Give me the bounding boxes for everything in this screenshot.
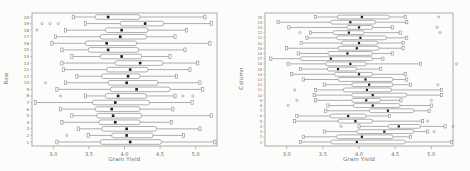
box-column-12 xyxy=(323,83,439,87)
box-row-15 xyxy=(61,48,186,53)
box-column-9 xyxy=(296,98,433,102)
box-column-16 xyxy=(287,62,458,66)
box-row-17 xyxy=(54,34,176,39)
box-column-18 xyxy=(297,52,393,56)
box-column-7 xyxy=(325,109,431,113)
box-row-5 xyxy=(71,113,213,118)
svg-text:16: 16 xyxy=(257,62,262,66)
svg-text:25: 25 xyxy=(257,16,262,20)
box-row-20 xyxy=(72,15,206,20)
box-row-7 xyxy=(34,100,193,105)
svg-text:10: 10 xyxy=(24,80,30,85)
box-row-1 xyxy=(56,140,216,145)
svg-text:16: 16 xyxy=(24,41,30,46)
box-row-8 xyxy=(59,94,194,99)
box-row-4 xyxy=(61,120,173,125)
box-row-16 xyxy=(51,41,211,46)
svg-text:6: 6 xyxy=(260,114,263,118)
box-column-24 xyxy=(277,20,408,24)
svg-text:1: 1 xyxy=(27,140,30,145)
box-row-6 xyxy=(59,107,174,112)
box-column-20 xyxy=(300,41,404,45)
svg-text:20: 20 xyxy=(257,42,262,46)
svg-text:6: 6 xyxy=(27,107,30,112)
box-column-6 xyxy=(296,114,391,118)
svg-text:13: 13 xyxy=(24,61,30,66)
box-row-10 xyxy=(44,80,201,85)
svg-text:22: 22 xyxy=(257,31,262,35)
svg-text:7: 7 xyxy=(27,100,30,105)
box-column-2 xyxy=(302,135,411,139)
box-row-3 xyxy=(77,127,201,132)
box-column-13 xyxy=(302,78,408,82)
y-axis-title-row-panel: Row xyxy=(3,49,12,109)
svg-text:23: 23 xyxy=(257,26,262,30)
svg-text:15: 15 xyxy=(257,68,262,72)
svg-text:9: 9 xyxy=(260,99,263,103)
box-row-11 xyxy=(76,74,178,79)
svg-text:14: 14 xyxy=(257,73,262,77)
svg-text:9: 9 xyxy=(27,87,30,92)
box-row-18 xyxy=(36,28,188,33)
y-axis-title-column-panel: Column xyxy=(238,49,247,109)
svg-text:11: 11 xyxy=(257,88,262,92)
box-column-3 xyxy=(323,130,435,134)
svg-text:5: 5 xyxy=(260,120,263,124)
svg-text:3: 3 xyxy=(260,130,263,134)
box-column-4 xyxy=(340,124,454,128)
svg-text:19: 19 xyxy=(24,21,30,26)
svg-text:18: 18 xyxy=(24,28,30,33)
box-column-22 xyxy=(299,31,441,35)
box-column-23 xyxy=(288,26,438,30)
svg-text:17: 17 xyxy=(24,34,30,39)
box-column-14 xyxy=(291,72,407,76)
box-row-14 xyxy=(71,54,171,59)
svg-text:17: 17 xyxy=(257,57,262,61)
box-row-12 xyxy=(62,67,191,72)
svg-text:8: 8 xyxy=(260,104,263,108)
box-column-25 xyxy=(315,15,440,19)
dual-boxplot-figure: 3.03.54.04.55.01234567891011121314151617… xyxy=(0,0,470,171)
svg-text:13: 13 xyxy=(257,78,262,82)
svg-text:2: 2 xyxy=(27,133,30,138)
box-column-10 xyxy=(313,93,442,97)
svg-text:2: 2 xyxy=(260,135,262,139)
svg-text:14: 14 xyxy=(24,54,30,59)
svg-text:20: 20 xyxy=(24,15,30,20)
column-boxplot-canvas: 3.03.54.04.55.01234567891011121314151617… xyxy=(235,0,470,171)
box-row-2 xyxy=(66,133,185,138)
x-axis-title-column-panel: Grain Yield xyxy=(265,156,453,162)
svg-text:8: 8 xyxy=(27,93,30,98)
column-boxplot-panel: 3.03.54.04.55.01234567891011121314151617… xyxy=(235,0,470,171)
svg-text:7: 7 xyxy=(260,109,263,113)
box-row-9 xyxy=(56,87,204,92)
svg-text:19: 19 xyxy=(257,47,262,51)
box-column-19 xyxy=(286,46,405,50)
svg-text:24: 24 xyxy=(257,21,262,25)
svg-text:4: 4 xyxy=(260,125,263,129)
box-column-17 xyxy=(270,57,384,61)
svg-text:10: 10 xyxy=(257,94,262,98)
box-row-13 xyxy=(61,61,199,66)
row-boxplot-panel: 3.03.54.04.55.01234567891011121314151617… xyxy=(0,0,235,171)
svg-text:12: 12 xyxy=(257,83,262,87)
svg-text:18: 18 xyxy=(257,52,262,56)
box-row-19 xyxy=(41,21,213,26)
svg-text:5: 5 xyxy=(27,113,30,118)
box-column-21 xyxy=(306,36,408,40)
row-boxplot-canvas: 3.03.54.04.55.01234567891011121314151617… xyxy=(0,0,235,171)
box-column-1 xyxy=(299,140,452,144)
svg-text:11: 11 xyxy=(24,74,30,79)
box-column-5 xyxy=(294,119,429,123)
svg-text:3: 3 xyxy=(27,126,30,131)
box-column-15 xyxy=(299,67,381,71)
svg-text:15: 15 xyxy=(24,47,30,52)
box-column-8 xyxy=(287,104,432,108)
svg-text:1: 1 xyxy=(260,141,262,145)
box-column-11 xyxy=(294,88,443,92)
svg-text:12: 12 xyxy=(24,67,30,72)
svg-text:4: 4 xyxy=(27,120,30,125)
x-axis-title-row-panel: Grain Yield xyxy=(32,156,217,162)
svg-text:21: 21 xyxy=(257,36,262,40)
